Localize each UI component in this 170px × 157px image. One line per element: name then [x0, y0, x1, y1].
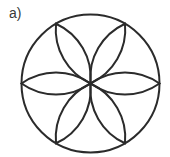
rosette-diagram [0, 0, 170, 157]
petal-0 [91, 73, 160, 95]
petals-group [22, 24, 160, 144]
petal-180 [22, 73, 91, 95]
